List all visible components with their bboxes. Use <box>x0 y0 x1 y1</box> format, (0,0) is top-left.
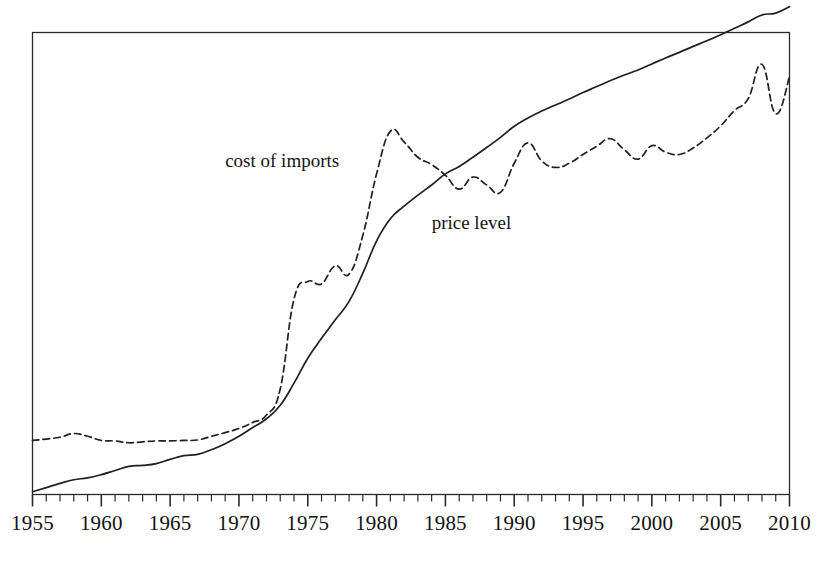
chart-background <box>0 0 822 564</box>
price-level-label: price level <box>432 212 512 234</box>
x-axis-tick-label-1990: 1990 <box>493 511 536 536</box>
x-axis-tick-label-1970: 1970 <box>218 511 261 536</box>
x-axis-tick-label-1980: 1980 <box>355 511 398 536</box>
x-axis-tick-label-1955: 1955 <box>11 511 54 536</box>
chart-plot-area <box>0 0 822 564</box>
chart-figure: 1955196019651970197519801985199019952000… <box>0 0 822 564</box>
x-axis-tick-label-2010: 2010 <box>768 511 811 536</box>
x-axis-tick-label-2005: 2005 <box>699 511 742 536</box>
x-axis-tick-label-2000: 2000 <box>630 511 673 536</box>
x-axis-tick-label-1965: 1965 <box>149 511 192 536</box>
x-axis-tick-label-1960: 1960 <box>80 511 123 536</box>
x-axis-tick-label-1975: 1975 <box>286 511 329 536</box>
x-axis-tick-label-1985: 1985 <box>424 511 467 536</box>
cost-of-imports-label: cost of imports <box>225 150 339 172</box>
x-axis-tick-label-1995: 1995 <box>562 511 605 536</box>
